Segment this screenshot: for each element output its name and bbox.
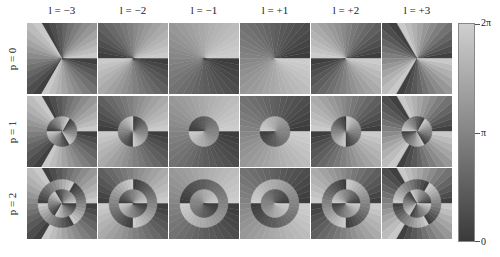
phase-cell-p0-l2 [311, 23, 381, 94]
phase-cell-p0-l-1 [169, 23, 239, 94]
col-label-l-plus-3: l = +3 [382, 4, 452, 16]
row-label-p-1: p = 1 [2, 96, 22, 168]
phase-cell-p1-l3 [382, 96, 452, 167]
phase-cell-p2-l-1 [169, 168, 239, 239]
colorbar-label-pi: π [481, 127, 486, 138]
phase-cell-p1-l2 [311, 96, 381, 167]
col-label-l-minus-1: l = −1 [169, 4, 239, 16]
col-label-l-plus-2: l = +2 [311, 4, 381, 16]
phase-cell-p0-l3 [382, 23, 452, 94]
phase-cell-p2-l-3 [27, 168, 97, 239]
phase-profile-figure: l = −3 l = −2 l = −1 l = +1 l = +2 l = +… [0, 0, 500, 257]
phase-cell-p1-l-1 [169, 96, 239, 167]
colorbar [458, 23, 475, 242]
phase-cell-p1-l-3 [27, 96, 97, 167]
phase-cell-p1-l-2 [98, 96, 168, 167]
phase-cell-p2-l2 [311, 168, 381, 239]
phase-cell-p0-l-3 [27, 23, 97, 94]
colorbar-tick-0 [475, 241, 480, 242]
col-label-l-minus-3: l = −3 [27, 4, 97, 16]
phase-cell-p0-l1 [240, 23, 310, 94]
colorbar-label-2pi: 2π [481, 17, 491, 28]
colorbar-tick-2pi [475, 24, 480, 25]
colorbar-label-0: 0 [481, 236, 486, 247]
col-label-l-minus-2: l = −2 [98, 4, 168, 16]
col-label-l-plus-1: l = +1 [240, 4, 310, 16]
phase-cell-p2-l3 [382, 168, 452, 239]
phase-cell-p2-l-2 [98, 168, 168, 239]
phase-cell-p1-l1 [240, 96, 310, 167]
row-label-p-2: p = 2 [2, 168, 22, 240]
phase-cell-p2-l1 [240, 168, 310, 239]
colorbar-tick-pi [475, 133, 480, 134]
phase-cell-p0-l-2 [98, 23, 168, 94]
row-label-p-0: p = 0 [2, 23, 22, 95]
